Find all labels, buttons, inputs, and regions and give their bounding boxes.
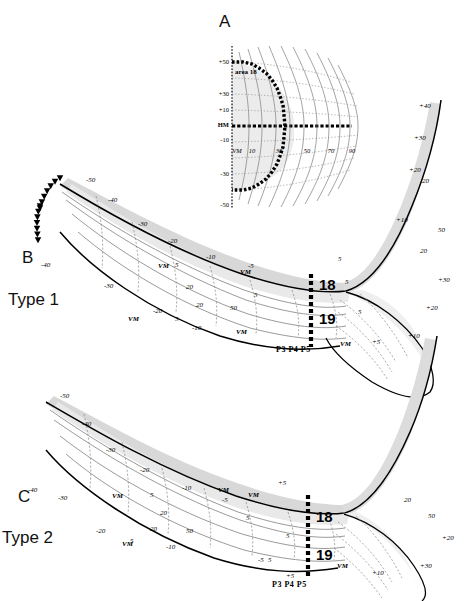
- marker-chains: [34, 175, 64, 243]
- c-vm-3: VM: [122, 540, 134, 548]
- c-label-neg50: -50: [60, 392, 70, 400]
- panel-c-band-fill-right: [342, 338, 436, 516]
- b-label-5b: 5: [175, 315, 179, 323]
- b-label-5e: 5: [345, 278, 349, 286]
- panel-b-area18-label: 18: [319, 276, 336, 293]
- b-label-neg20: -20: [168, 237, 178, 245]
- c-label-20b: 20: [150, 525, 158, 533]
- panel-c-group: -50 -40 -30 -20 -10 -5 -40 -30 -20 -10 -…: [28, 336, 454, 601]
- b-label-neg30b: -30: [104, 282, 114, 290]
- c-vm-5: VM: [337, 562, 349, 570]
- panel-b-area19-label: 19: [319, 310, 336, 327]
- tick-neg30: -30: [220, 170, 229, 177]
- b-label-5a: 5: [175, 261, 179, 269]
- b-label-pos30: +30: [414, 134, 426, 142]
- panel-c-letter: C: [18, 487, 30, 507]
- c-label-pos30: +30: [420, 562, 432, 570]
- b-label-5f: 5: [358, 308, 362, 316]
- c-label-5a: 5: [150, 491, 154, 499]
- tick-hm-label: HM: [218, 121, 229, 128]
- c-label-pos5b: +5: [286, 572, 295, 580]
- panel-b-right-lobe-fill: [344, 290, 429, 371]
- c-vm-2: VM: [112, 492, 124, 500]
- figure-canvas: +50 +30 HM +10 -10 -30 -50 VM 10 30 50 7…: [0, 0, 476, 601]
- b-label-pos20: +20: [409, 166, 421, 174]
- c-label-neg20b: -20: [96, 527, 106, 535]
- b-label-20a: 20: [186, 283, 194, 291]
- panel-b-type-label: Type 1: [8, 290, 59, 310]
- panel-b-tri-chain-left: [34, 203, 44, 243]
- b-label-pos40: +40: [419, 102, 431, 110]
- c-label-neg30b: -30: [58, 494, 68, 502]
- panel-a-vertical-tick-labels: +50 +30 HM +10 -10 -30 -50: [218, 58, 229, 208]
- c-label-5c: 5: [246, 514, 250, 522]
- b-label-5d: 5: [338, 255, 342, 263]
- panel-c-type-label: Type 2: [2, 528, 53, 548]
- b-label-neg50: -50: [86, 176, 96, 184]
- b-label-5c: 5: [254, 291, 258, 299]
- tick-pos50: +50: [219, 58, 229, 65]
- tick-vm-label: VM: [232, 147, 242, 154]
- b-vm-4: VM: [158, 262, 170, 270]
- tick-pos10: +10: [219, 106, 229, 113]
- c-vm-4: VM: [248, 491, 260, 499]
- panel-a-area18-inner-label: area 18: [235, 68, 257, 76]
- tick-90: 90: [349, 147, 356, 154]
- c-label-50a: 50: [186, 527, 194, 535]
- panel-c-band-fill-upper: [46, 396, 347, 516]
- c-label-pos20: +20: [442, 534, 454, 542]
- tick-pos30: +30: [219, 90, 229, 97]
- b-label-neg30: -30: [138, 220, 148, 228]
- figure-svg: +50 +30 HM +10 -10 -30 -50 VM 10 30 50 7…: [0, 0, 476, 601]
- panel-c-area18-label: 18: [316, 508, 333, 525]
- c-label-neg10b: -10: [166, 543, 176, 551]
- c-label-neg10: -10: [182, 484, 192, 492]
- panel-b-electrode-labels: P3 P4 P5: [276, 345, 311, 354]
- c-label-neg30: -30: [106, 446, 116, 454]
- c-label-20a: 20: [160, 509, 168, 517]
- b-label-neg10: -10: [206, 253, 216, 261]
- c-label-5e: 5: [268, 556, 272, 564]
- b-label-pos10: +10: [396, 216, 408, 224]
- b-label-neg40: -40: [108, 196, 118, 204]
- tick-10: 10: [249, 147, 256, 154]
- b-label-pos10b: +10: [408, 332, 420, 340]
- b-label-neg10b: -10: [192, 324, 202, 332]
- panel-b-letter: B: [22, 248, 33, 268]
- panel-c-electrode-labels: P3 P4 P5: [272, 580, 307, 589]
- b-label-20b: 20: [196, 301, 204, 309]
- panel-b-band-fill-upper: [60, 178, 348, 294]
- c-label-neg40: -40: [82, 420, 92, 428]
- b-label-20c: 20: [420, 247, 428, 255]
- b-label-50a: 50: [230, 304, 238, 312]
- b-vm-1: VM: [240, 268, 252, 276]
- c-label-neg20: -20: [140, 466, 150, 474]
- panel-a-letter: A: [219, 12, 230, 32]
- tick-neg50: -50: [220, 201, 229, 208]
- panel-c-right-lobe-line: [344, 514, 425, 601]
- c-label-50b: 50: [428, 512, 436, 520]
- b-label-pos5: +5: [372, 338, 381, 346]
- b-label-neg40b: -40: [41, 261, 51, 269]
- c-label-5d: 5: [286, 532, 290, 540]
- b-vm-2: VM: [236, 328, 248, 336]
- b-label-pos30b: +30: [438, 276, 450, 284]
- c-label-neg5b: -5: [258, 556, 264, 564]
- b-vm-5: VM: [128, 315, 140, 323]
- c-label-20c: 20: [404, 496, 412, 504]
- c-label-pos5: +5: [278, 479, 287, 487]
- tick-neg10: -10: [220, 136, 229, 143]
- b-vm-3: VM: [340, 340, 352, 348]
- panel-c-area19-label: 19: [316, 546, 333, 563]
- b-label-20d: 20: [422, 177, 430, 185]
- c-label-neg5: -5: [222, 496, 228, 504]
- panel-b-right-lobe-contours: [336, 294, 408, 380]
- tick-30: 30: [275, 147, 283, 154]
- c-vm-1: VM: [218, 486, 230, 494]
- c-label-pos10: +10: [372, 569, 384, 577]
- tick-50: 50: [304, 147, 311, 154]
- b-label-neg20b: -20: [153, 307, 163, 315]
- tick-70: 70: [328, 147, 335, 154]
- b-label-50b: 50: [438, 226, 446, 234]
- b-label-pos20b: +20: [426, 304, 438, 312]
